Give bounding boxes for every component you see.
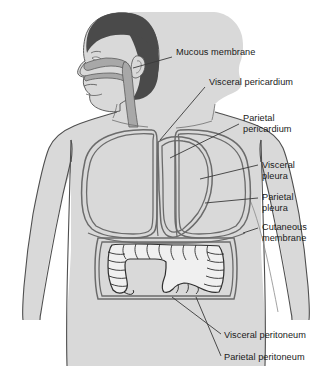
label-cutaneous-membrane-line-2: membrane	[262, 233, 307, 244]
torso-shape	[23, 12, 310, 366]
label-visceral-pleura-line-2: pleura	[262, 171, 295, 182]
label-visceral-pericardium-line-1: Visceral pericardium	[209, 77, 293, 88]
label-parietal-peritoneum: Parietal peritoneum	[224, 352, 305, 363]
label-parietal-pleura-line-1: Parietal	[262, 192, 294, 203]
label-visceral-pericardium: Visceral pericardium	[209, 77, 293, 88]
label-visceral-peritoneum: Visceral peritoneum	[224, 330, 306, 341]
large-intestine	[108, 244, 224, 294]
label-visceral-pleura-line-1: Visceral	[262, 160, 295, 171]
label-visceral-peritoneum-line-1: Visceral peritoneum	[224, 330, 306, 341]
label-mucous-membrane: Mucous membrane	[176, 47, 255, 58]
label-parietal-pericardium-line-1: Parietal	[243, 113, 292, 124]
body-silhouette	[23, 12, 310, 366]
label-mucous-membrane-line-1: Mucous membrane	[176, 47, 255, 58]
body-membranes-diagram	[0, 0, 333, 381]
label-parietal-pericardium: Parietalpericardium	[243, 113, 292, 134]
label-parietal-pleura-line-2: pleura	[262, 203, 294, 214]
label-cutaneous-membrane: Cutaneousmembrane	[262, 222, 307, 243]
label-visceral-pleura: Visceralpleura	[262, 160, 295, 181]
label-parietal-pericardium-line-2: pericardium	[243, 124, 292, 135]
pharynx-junction	[124, 69, 130, 83]
label-parietal-peritoneum-line-1: Parietal peritoneum	[224, 352, 305, 363]
label-cutaneous-membrane-line-1: Cutaneous	[262, 222, 307, 233]
label-parietal-pleura: Parietalpleura	[262, 192, 294, 213]
